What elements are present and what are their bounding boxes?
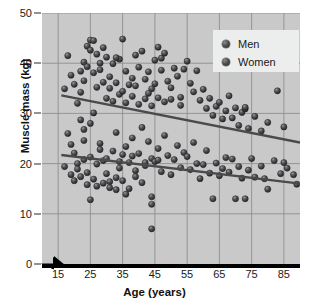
y-tick-mark	[34, 163, 41, 164]
legend-marker-icon	[222, 40, 230, 48]
x-tick-label: 55	[181, 268, 193, 280]
x-tick-label: 15	[52, 268, 64, 280]
x-tick-label: 85	[278, 268, 290, 280]
x-axis: 1525354555657585	[0, 268, 309, 286]
x-tick-label: 75	[246, 268, 258, 280]
legend-marker-icon	[222, 58, 230, 66]
y-tick-mark	[34, 13, 41, 14]
x-tick-label: 65	[213, 268, 225, 280]
trendline-women	[61, 155, 300, 184]
x-tick-label: 45	[149, 268, 161, 280]
trendline-men	[61, 95, 300, 142]
y-tick-mark	[34, 213, 41, 214]
legend-item-women: Women	[222, 54, 276, 70]
scatter-chart-figure: 01020304050 Muscle mass (kg) 15253545556…	[0, 0, 309, 305]
legend-item-men: Men	[222, 36, 259, 52]
x-tick-label: 25	[84, 268, 96, 280]
y-tick-mark	[34, 113, 41, 114]
y-tick-label: 10	[20, 208, 32, 220]
y-tick-label: 50	[20, 7, 32, 19]
y-tick-mark	[34, 63, 41, 64]
x-axis-title: Age (years)	[0, 286, 309, 298]
x-tick-label: 35	[117, 268, 129, 280]
y-axis-title: Muscle mass (kg)	[19, 21, 31, 191]
legend-label-women: Women	[238, 56, 276, 68]
legend: Men Women	[213, 30, 299, 72]
legend-label-men: Men	[238, 38, 259, 50]
